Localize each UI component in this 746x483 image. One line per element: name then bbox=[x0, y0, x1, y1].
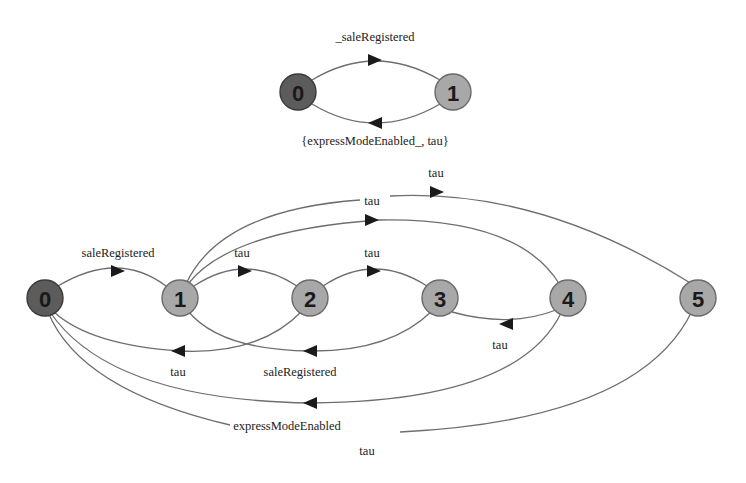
state-node-4: 4 bbox=[550, 280, 586, 316]
bottom-lts-graph: saleRegisteredtautautautautautausaleRegi… bbox=[27, 166, 716, 458]
transition-label: tau bbox=[428, 166, 444, 180]
arrowhead-icon bbox=[365, 214, 379, 226]
state-label: 4 bbox=[562, 287, 575, 312]
state-node-3: 3 bbox=[422, 280, 458, 316]
transition-0-to-1: _saleRegistered bbox=[312, 30, 440, 80]
arrowhead-icon bbox=[368, 117, 382, 129]
state-node-1: 1 bbox=[162, 280, 198, 316]
transition-4-to-3: tau bbox=[452, 310, 556, 352]
state-label: 1 bbox=[447, 81, 459, 106]
transition-0-to-1: saleRegistered bbox=[58, 246, 166, 286]
state-label: 0 bbox=[292, 81, 304, 106]
transition-label: tau bbox=[359, 444, 375, 458]
transition-label: tau bbox=[170, 365, 186, 379]
transition-label: tau bbox=[364, 194, 380, 208]
transition-3-to-1: saleRegistered bbox=[188, 311, 432, 379]
state-node-1: 1 bbox=[435, 74, 471, 110]
transition-label: _saleRegistered bbox=[334, 30, 415, 44]
state-node-0: 0 bbox=[280, 74, 316, 110]
arrowhead-icon bbox=[111, 265, 125, 277]
transition-edge bbox=[188, 311, 432, 351]
state-node-0: 0 bbox=[27, 280, 63, 316]
arrowhead-icon bbox=[303, 345, 317, 357]
transition-label: saleRegistered bbox=[264, 365, 338, 379]
transition-2-to-3: tau bbox=[323, 246, 427, 286]
arrowhead-icon bbox=[367, 265, 381, 277]
state-label: 3 bbox=[434, 287, 446, 312]
transition-label: tau bbox=[492, 338, 508, 352]
transition-edge bbox=[54, 311, 302, 351]
arrowhead-icon bbox=[171, 345, 185, 357]
transition-label: saleRegistered bbox=[82, 246, 156, 260]
transition-label: {expressModeEnabled_, tau} bbox=[301, 134, 448, 148]
transition-edge bbox=[48, 311, 692, 432]
state-node-2: 2 bbox=[292, 280, 328, 316]
transition-1-to-5: tau bbox=[186, 166, 692, 284]
state-label: 2 bbox=[304, 287, 316, 312]
arrowhead-icon bbox=[368, 54, 382, 66]
transition-label: expressModeEnabled bbox=[233, 419, 341, 433]
transition-5-to-0: tau bbox=[48, 311, 692, 458]
state-label: 0 bbox=[39, 287, 51, 312]
state-node-5: 5 bbox=[680, 280, 716, 316]
arrowhead-icon bbox=[303, 397, 317, 409]
transition-edge bbox=[312, 61, 440, 80]
top-lts-graph: _saleRegistered{expressModeEnabled_, tau… bbox=[280, 30, 471, 148]
transition-1-to-0: {expressModeEnabled_, tau} bbox=[301, 104, 448, 148]
state-machine-diagram: _saleRegistered{expressModeEnabled_, tau… bbox=[0, 0, 746, 483]
state-label: 1 bbox=[174, 287, 186, 312]
arrowhead-icon bbox=[238, 265, 252, 277]
transition-label: tau bbox=[364, 246, 380, 260]
state-label: 5 bbox=[692, 287, 704, 312]
transition-edge bbox=[452, 310, 556, 320]
